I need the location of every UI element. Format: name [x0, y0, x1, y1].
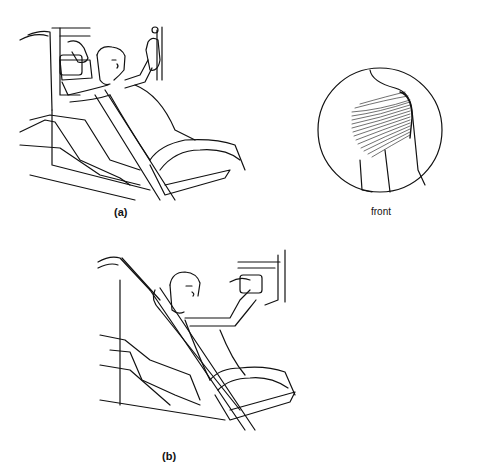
panel-a-label: (a) — [114, 206, 127, 218]
panel-b-label: (b) — [162, 450, 176, 462]
panel-a-drawing — [20, 27, 245, 200]
illustration — [0, 0, 478, 475]
figure: (a) front (b) — [0, 0, 478, 475]
panel-b-drawing — [98, 250, 295, 430]
inset-label: front — [371, 206, 391, 217]
shoulder-muscle-inset — [318, 68, 442, 192]
